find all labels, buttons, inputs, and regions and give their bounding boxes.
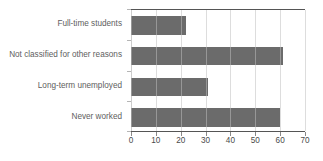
x-axis-labels: 010203040506070 [131, 137, 305, 151]
x-tick-label-20: 20 [176, 137, 185, 145]
gridline-70 [305, 10, 306, 131]
bar-never-worked[interactable] [131, 108, 280, 126]
x-tick-label-30: 30 [201, 137, 210, 145]
category-label-never-worked: Never worked [71, 113, 122, 121]
bar-long-term-unemployed[interactable] [131, 78, 208, 96]
category-slot: Long-term unemployed [0, 71, 126, 102]
x-tick-label-70: 70 [300, 137, 309, 145]
category-slot: Never worked [0, 101, 126, 132]
bar-not-classified-for-other-reasons[interactable] [131, 47, 283, 65]
bar-slot [131, 10, 305, 41]
x-tick-label-10: 10 [151, 137, 160, 145]
category-label-full-time-students: Full-time students [57, 20, 122, 28]
gridline-overlay-70 [305, 10, 306, 131]
bar-full-time-students[interactable] [131, 16, 186, 34]
bars-layer [131, 10, 305, 131]
x-tick-label-50: 50 [251, 137, 260, 145]
category-slot: Not classified for other reasons [0, 40, 126, 71]
plot-area [131, 9, 305, 132]
x-tick-label-60: 60 [276, 137, 285, 145]
category-label-not-classified-for-other-reasons: Not classified for other reasons [9, 51, 122, 59]
bar-slot [131, 72, 305, 103]
bar-slot [131, 102, 305, 133]
x-tick-label-40: 40 [226, 137, 235, 145]
category-axis: Full-time students Not classified for ot… [0, 9, 126, 132]
category-slot: Full-time students [0, 9, 126, 40]
bar-chart: Full-time students Not classified for ot… [0, 0, 323, 161]
x-tick-label-0: 0 [129, 137, 134, 145]
category-label-long-term-unemployed: Long-term unemployed [38, 82, 122, 90]
bar-slot [131, 41, 305, 72]
